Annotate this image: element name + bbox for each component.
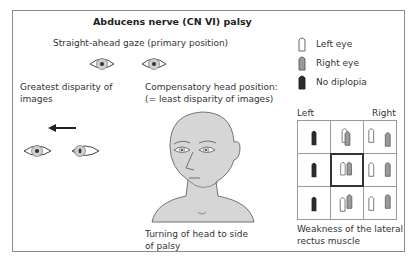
grid-cell-down-left xyxy=(297,186,331,220)
left-eye-bar-icon xyxy=(298,36,306,52)
grid-cell-mid-right xyxy=(363,153,397,187)
diplopia-grid xyxy=(297,120,396,219)
greatest-disparity-label-2: images xyxy=(20,94,53,105)
right-eye-bar-icon xyxy=(298,55,306,71)
grid-cell-up-left xyxy=(297,120,331,154)
grid-caption-1: Weakness of the lateral xyxy=(297,224,403,235)
right-eye-icon xyxy=(24,146,51,157)
grid-cell-primary-position xyxy=(330,153,364,187)
left-eye-icon xyxy=(72,146,99,157)
compensatory-label-2: (= least disparity of images) xyxy=(145,94,273,105)
no-diplopia-bar-icon xyxy=(298,74,306,90)
head-caption-2: of palsy xyxy=(145,241,180,252)
grid-cell-up-right xyxy=(363,120,397,154)
grid-left-label: Left xyxy=(297,108,314,119)
grid-cell-down-right xyxy=(363,186,397,220)
head-illustration xyxy=(140,108,270,226)
grid-cell-up-center xyxy=(330,120,364,154)
right-eye-icon xyxy=(90,59,114,70)
figure-title: Abducens nerve (CN VI) palsy xyxy=(93,16,252,27)
lateral-gaze-eyes xyxy=(22,140,108,162)
primary-gaze-eyes xyxy=(88,54,186,74)
grid-right-label: Right xyxy=(372,108,396,119)
grid-cell-down-center xyxy=(330,186,364,220)
arrow-left-icon xyxy=(48,123,78,133)
primary-gaze-label: Straight-ahead gaze (primary position) xyxy=(53,38,228,49)
grid-cell-mid-left xyxy=(297,153,331,187)
greatest-disparity-label-1: Greatest disparity of xyxy=(20,82,112,93)
legend-right-eye: Right eye xyxy=(298,55,359,71)
legend-left-eye: Left eye xyxy=(298,36,352,52)
head-caption-1: Turning of head to side xyxy=(145,229,248,240)
left-eye-icon xyxy=(142,59,166,70)
legend-no-diplopia: No diplopia xyxy=(298,74,367,90)
compensatory-label-1: Compensatory head position: xyxy=(145,82,278,93)
grid-caption-2: rectus muscle xyxy=(297,236,360,247)
